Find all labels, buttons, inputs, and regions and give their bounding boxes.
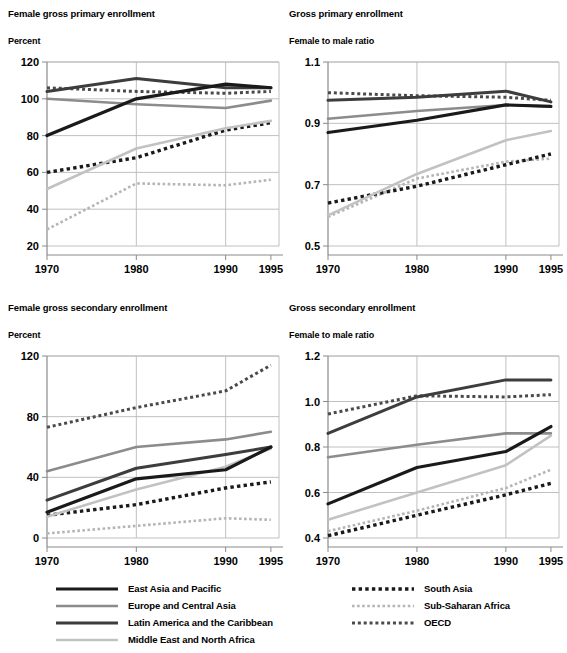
legend-swatch xyxy=(56,634,118,646)
line-chart-svg: 040801201970198019901995 xyxy=(0,346,287,574)
y-axis-tick-label: 0.7 xyxy=(305,179,320,191)
legend-item: Sub-Saharan Africa xyxy=(352,597,510,614)
y-axis-tick-label: 100 xyxy=(21,93,39,105)
y-axis-tick-label: 40 xyxy=(27,471,39,483)
series-line xyxy=(328,380,551,433)
legend-item: OECD xyxy=(352,614,510,631)
y-axis-tick-label: 1.2 xyxy=(305,350,320,362)
x-axis-tick-label: 1980 xyxy=(124,263,148,275)
series-line xyxy=(47,447,271,512)
x-axis-tick-label: 1995 xyxy=(259,555,283,567)
x-axis-tick-label: 1970 xyxy=(316,555,340,567)
line-chart-svg: 0.40.60.81.01.21970198019901995 xyxy=(281,346,567,574)
series-line xyxy=(47,518,271,533)
panel-gross-primary-enrollment: Gross primary enrollment Female to male … xyxy=(281,0,567,292)
series-line xyxy=(47,123,271,173)
y-axis-tick-label: 1.1 xyxy=(305,56,320,68)
panel-gross-secondary-enrollment: Gross secondary enrollment Female to mal… xyxy=(281,294,567,582)
y-axis-title: Female to male ratio xyxy=(289,330,374,340)
y-axis-title: Percent xyxy=(8,330,40,340)
legend-swatch xyxy=(56,600,118,612)
legend-item: Europe and Central Asia xyxy=(56,597,273,614)
y-axis-tick-label: 80 xyxy=(27,411,39,423)
legend-label: South Asia xyxy=(424,583,472,594)
y-axis-tick-label: 0.6 xyxy=(305,487,320,499)
series-line xyxy=(47,180,271,230)
series-line xyxy=(328,436,551,520)
legend-item: South Asia xyxy=(352,580,510,597)
plot-area: 0.40.60.81.01.21970198019901995 xyxy=(281,346,567,576)
plot-area: 0.50.70.91.11970198019901995 xyxy=(281,52,567,282)
plot-area: 040801201970198019901995 xyxy=(0,346,287,576)
panel-female-gross-primary-enrollment: Female gross primary enrollment Percent … xyxy=(0,0,287,292)
plot-area: 204060801001201970198019901995 xyxy=(0,52,287,282)
y-axis-tick-label: 0.4 xyxy=(305,532,321,544)
legend-item: East Asia and Pacific xyxy=(56,580,273,597)
legend-item: Latin America and the Caribbean xyxy=(56,614,273,631)
legend-swatch xyxy=(56,617,118,629)
y-axis-tick-label: 0.9 xyxy=(305,117,320,129)
x-axis-tick-label: 1990 xyxy=(494,555,518,567)
y-axis-title: Percent xyxy=(8,36,40,46)
y-axis-tick-label: 120 xyxy=(21,56,39,68)
x-axis-tick-label: 1970 xyxy=(35,263,59,275)
legend-label: OECD xyxy=(424,617,451,628)
legend-label: Europe and Central Asia xyxy=(128,600,236,611)
x-axis-tick-label: 1980 xyxy=(405,263,429,275)
line-chart-svg: 204060801001201970198019901995 xyxy=(0,52,287,282)
series-line xyxy=(328,395,551,414)
series-line xyxy=(328,154,551,203)
x-axis-tick-label: 1990 xyxy=(213,555,237,567)
series-line xyxy=(328,91,551,102)
panel-title: Female gross secondary enrollment xyxy=(8,302,167,313)
panel-title: Female gross primary enrollment xyxy=(8,8,155,19)
y-axis-title: Female to male ratio xyxy=(289,36,374,46)
y-axis-tick-label: 0.5 xyxy=(305,240,320,252)
x-axis-tick-label: 1980 xyxy=(124,555,148,567)
panel-title: Gross primary enrollment xyxy=(289,8,403,19)
y-axis-tick-label: 80 xyxy=(27,130,39,142)
legend-swatch xyxy=(352,600,414,612)
series-line xyxy=(47,121,271,189)
legend-label: Middle East and North Africa xyxy=(128,634,255,645)
legend-item: Middle East and North Africa xyxy=(56,631,273,648)
series-line xyxy=(47,449,271,517)
chart-legend: East Asia and PacificEurope and Central … xyxy=(0,580,567,653)
panel-female-gross-secondary-enrollment: Female gross secondary enrollment Percen… xyxy=(0,294,287,582)
x-axis-tick-label: 1970 xyxy=(316,263,340,275)
y-axis-tick-label: 60 xyxy=(27,166,39,178)
x-axis-tick-label: 1970 xyxy=(35,555,59,567)
panel-title: Gross secondary enrollment xyxy=(289,302,415,313)
series-line xyxy=(328,159,551,217)
x-axis-tick-label: 1995 xyxy=(259,263,283,275)
x-axis-tick-label: 1995 xyxy=(539,555,563,567)
legend-label: Latin America and the Caribbean xyxy=(128,617,273,628)
series-line xyxy=(47,447,271,500)
legend-label: Sub-Saharan Africa xyxy=(424,600,510,611)
x-axis-tick-label: 1980 xyxy=(405,555,429,567)
legend-swatch xyxy=(56,583,118,595)
legend-column-left: East Asia and PacificEurope and Central … xyxy=(56,580,273,648)
x-axis-tick-label: 1995 xyxy=(539,263,563,275)
y-axis-tick-label: 0.8 xyxy=(305,441,320,453)
chart-grid: Female gross primary enrollment Percent … xyxy=(0,0,567,580)
legend-swatch xyxy=(352,617,414,629)
legend-swatch xyxy=(352,583,414,595)
legend-column-right: South AsiaSub-Saharan AfricaOECD xyxy=(352,580,510,631)
series-line xyxy=(47,99,271,108)
y-axis-tick-label: 40 xyxy=(27,203,39,215)
y-axis-tick-label: 120 xyxy=(21,350,39,362)
series-line xyxy=(47,365,271,427)
line-chart-svg: 0.50.70.91.11970198019901995 xyxy=(281,52,567,282)
x-axis-tick-label: 1990 xyxy=(494,263,518,275)
y-axis-tick-label: 1.0 xyxy=(305,396,320,408)
series-line xyxy=(328,470,551,531)
y-axis-tick-label: 0 xyxy=(33,532,39,544)
legend-label: East Asia and Pacific xyxy=(128,583,221,594)
x-axis-tick-label: 1990 xyxy=(213,263,237,275)
y-axis-tick-label: 20 xyxy=(27,240,39,252)
